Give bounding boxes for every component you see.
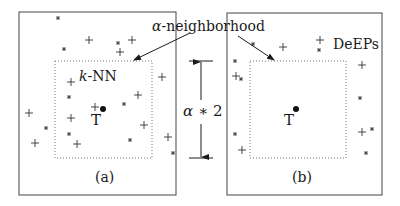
panel-b-test-label: T	[284, 113, 294, 128]
plus-marker	[158, 73, 166, 81]
plus-marker	[134, 91, 142, 99]
plus-marker	[67, 114, 75, 122]
dimension-factor: 2	[213, 102, 223, 120]
star-marker	[67, 132, 71, 136]
deeps-label: DeEPs	[333, 37, 379, 51]
star-marker	[317, 48, 321, 52]
star-marker	[233, 132, 237, 136]
plus-marker	[238, 146, 246, 154]
plus-marker	[232, 72, 240, 80]
star-marker	[239, 77, 243, 81]
plus-marker	[85, 36, 93, 44]
star-marker	[116, 41, 120, 45]
star-marker	[67, 95, 71, 99]
plus-marker	[164, 133, 172, 141]
star-marker	[128, 138, 132, 142]
panel-a-test-label: T	[91, 113, 101, 128]
plus-marker	[116, 48, 124, 56]
star-marker	[364, 151, 368, 155]
plus-marker	[128, 36, 136, 44]
panel-a	[19, 12, 176, 195]
panel-a-outer-box	[19, 12, 176, 195]
dimension-alpha: α	[183, 102, 193, 120]
plus-marker	[279, 43, 287, 51]
plus-marker	[91, 103, 99, 111]
panel-b-caption: (b)	[292, 170, 312, 184]
star-marker	[171, 151, 175, 155]
star-marker	[122, 102, 126, 106]
arrow-to-panel-a	[134, 33, 190, 60]
star-marker	[370, 127, 374, 131]
knn-label: k-NN	[79, 69, 117, 83]
dimension-operator: ∗	[198, 102, 208, 120]
plus-marker	[358, 128, 366, 136]
plus-marker	[358, 61, 366, 69]
star-marker	[358, 96, 362, 100]
alpha-neighborhood-label: α-neighborhood	[152, 19, 265, 33]
arrow-to-panel-b	[238, 36, 274, 60]
plus-marker	[25, 109, 33, 117]
plus-marker	[31, 139, 39, 147]
neighborhood-text: -neighborhood	[161, 18, 264, 34]
plus-marker	[316, 36, 324, 44]
plus-marker	[67, 78, 75, 86]
panel-b-star-points	[233, 42, 374, 155]
star-marker	[233, 59, 237, 63]
dimension-label: α ∗ 2	[182, 104, 223, 119]
plus-marker	[73, 140, 81, 148]
plus-marker	[140, 121, 148, 129]
knn-suffix: -NN	[87, 68, 116, 84]
panel-a-star-points	[44, 16, 175, 155]
star-marker	[44, 126, 48, 130]
star-marker	[56, 16, 60, 20]
star-marker	[62, 47, 66, 51]
panel-a-caption: (a)	[95, 170, 114, 184]
